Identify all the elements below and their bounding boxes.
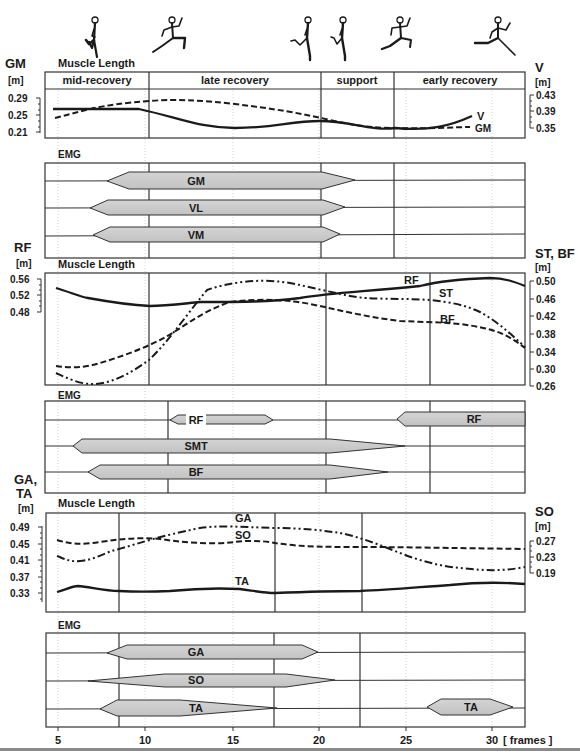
emg-label-ga: GA <box>188 646 205 658</box>
left-axis-unit: [m] <box>8 75 24 86</box>
tick-label: 0.27 <box>536 536 556 547</box>
emg-label-gm: GM <box>187 175 205 187</box>
emg-label-ta: TA <box>464 701 478 713</box>
series-gm-line <box>55 100 470 128</box>
emg-label-ta: TA <box>189 702 203 714</box>
x-tick-label: 5 <box>55 734 61 746</box>
emg-bar-bf <box>88 465 388 479</box>
tick-label: 0.46 <box>536 294 556 305</box>
series-label-bf: BF <box>440 313 455 325</box>
left-axis-title: TA <box>16 486 33 501</box>
tick-label: 0.48 <box>10 307 30 318</box>
series-label-gm: GM <box>475 123 491 134</box>
emg-bar-so <box>88 674 335 687</box>
tick-label: 0.37 <box>10 572 30 583</box>
series-v-line <box>53 109 472 129</box>
left-axis-unit: [m] <box>18 503 34 514</box>
series-label-so: SO <box>235 529 251 541</box>
left-axis-unit: [m] <box>16 258 32 269</box>
x-tick-label: 10 <box>139 734 151 746</box>
tick-label: 0.23 <box>536 552 556 563</box>
left-axis-title: GM <box>5 56 26 71</box>
emg-label-smt: SMT <box>184 440 208 452</box>
runner-icon <box>153 17 185 52</box>
right-axis-title: V <box>535 60 544 75</box>
panel-gm-v-muscle-length: GM [m] Muscle Length V [m] mid-recovery … <box>5 56 556 138</box>
emg-bar-vm <box>93 227 340 242</box>
tick-label: 0.30 <box>536 364 556 375</box>
tick-label: 0.29 <box>8 93 28 104</box>
phase-label-late-recovery: late recovery <box>201 74 270 86</box>
section-label: EMG <box>58 390 81 401</box>
series-label-ga: GA <box>235 512 252 524</box>
tick-label: 0.43 <box>536 90 556 101</box>
right-axis-unit: [m] <box>535 262 551 273</box>
tick-label: 0.25 <box>8 110 28 121</box>
x-axis: 5 10 15 20 25 30 [ frames ] <box>55 727 553 746</box>
panel-emg-gm-vl-vm: EMG GM VL VM <box>45 149 525 258</box>
runner-icon <box>86 17 98 57</box>
series-st-line <box>56 281 525 384</box>
tick-label: 0.52 <box>10 290 30 301</box>
emg-label-rf: RF <box>189 414 204 426</box>
panel-rf-st-bf-muscle-length: RF [m] Muscle Length ST, BF [m] 0.56 0.5… <box>10 240 575 392</box>
left-axis-title: RF <box>14 240 31 255</box>
series-so-line <box>57 538 525 549</box>
phase-label-mid-recovery: mid-recovery <box>62 74 132 86</box>
tick-label: 0.38 <box>536 329 556 340</box>
section-label: Muscle Length <box>58 497 135 509</box>
section-label: Muscle Length <box>58 57 135 69</box>
right-axis-unit: [m] <box>535 77 551 88</box>
emg-bar-rf-late <box>397 412 525 426</box>
section-label: EMG <box>58 620 81 631</box>
emg-bar-ga <box>107 645 318 659</box>
emg-bar-vl <box>90 200 345 215</box>
series-label-v: V <box>477 110 485 122</box>
x-tick-label: 30 <box>486 734 498 746</box>
series-bf-line <box>56 300 525 367</box>
emg-label-bf: BF <box>189 466 204 478</box>
tick-label: 0.39 <box>536 106 556 117</box>
tick-label: 0.34 <box>536 347 556 358</box>
tick-label: 0.41 <box>10 555 30 566</box>
tick-label: 0.21 <box>8 127 28 138</box>
emg-bar-gm <box>107 172 355 189</box>
emg-label-rf: RF <box>467 413 482 425</box>
emg-label-vm: VM <box>188 229 205 241</box>
runner-icon <box>475 17 515 55</box>
series-label-rf: RF <box>404 274 419 286</box>
bottom-divider <box>0 748 580 751</box>
emg-label-so: SO <box>188 674 204 686</box>
x-tick-label: 15 <box>227 734 239 746</box>
series-label-st: ST <box>439 287 453 299</box>
section-label: Muscle Length <box>58 258 135 270</box>
tick-label: 0.50 <box>536 276 556 287</box>
runner-icon <box>291 17 311 60</box>
emg-bar-smt <box>73 439 405 453</box>
tick-label: 0.33 <box>10 588 30 599</box>
phase-label-support: support <box>337 74 378 86</box>
figure-canvas: GM [m] Muscle Length V [m] mid-recovery … <box>0 0 580 756</box>
section-label: EMG <box>58 149 81 160</box>
series-label-ta: TA <box>235 575 249 587</box>
series-ta-line <box>57 583 525 593</box>
tick-label: 0.56 <box>10 274 30 285</box>
tick-label: 0.26 <box>536 381 556 392</box>
right-axis-title: SO <box>535 504 554 519</box>
x-tick-label: 25 <box>400 734 412 746</box>
right-axis-unit: [m] <box>535 521 551 532</box>
tick-label: 0.35 <box>536 123 556 134</box>
left-axis-title: GA, <box>14 472 37 487</box>
emg-bar-rf-early <box>170 415 273 424</box>
panel-emg-rf-smt-bf: EMG RF SMT BF RF <box>45 390 525 493</box>
runner-icon <box>382 17 411 49</box>
stick-figures <box>86 17 515 60</box>
runner-icon <box>331 17 346 60</box>
x-axis-label: [ frames ] <box>503 734 553 746</box>
x-tick-label: 20 <box>313 734 325 746</box>
tick-label: 0.45 <box>10 539 30 550</box>
panel-emg-ga-so-ta: EMG GA SO TA TA <box>46 620 525 727</box>
emg-label-vl: VL <box>189 202 203 214</box>
tick-label: 0.49 <box>10 522 30 533</box>
tick-label: 0.19 <box>536 568 556 579</box>
